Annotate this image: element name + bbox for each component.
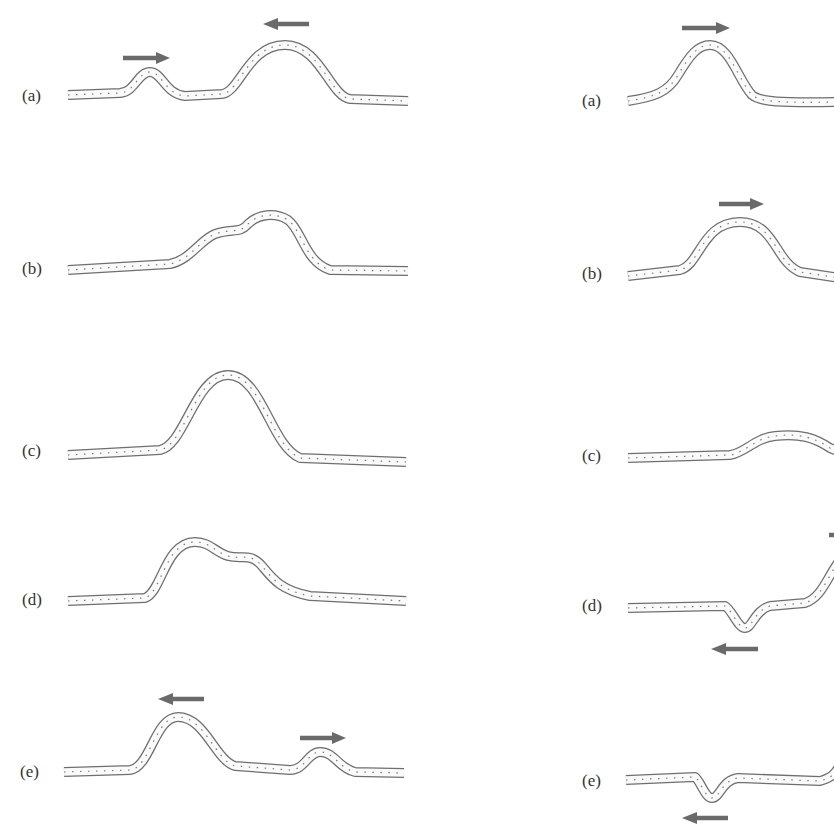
rope-icon [628,222,834,278]
arrow-left-icon [263,18,309,30]
rope-icon [64,717,404,773]
right-panel-b: (b) [560,180,834,300]
arrow-left-icon [682,812,728,824]
rope-diagram [0,340,420,480]
arrow-left-icon [158,693,204,705]
rope-icon [628,45,834,102]
rope-diagram [0,180,420,300]
rope-diagram [0,0,420,140]
right-panel-a: (a) [560,0,834,140]
arrow-right-icon [682,22,730,34]
arrow-right-icon [300,732,346,744]
rope-icon [68,215,408,271]
left-panel-b: (b) [0,180,420,300]
rope-diagram [560,720,834,837]
left-panel-c: (c) [0,340,420,480]
left-panel-e: (e) [0,680,420,810]
arrow-left-icon [711,643,758,655]
rope-diagram [560,0,834,140]
rope-diagram [560,520,834,670]
arrow-right-icon [719,198,764,210]
rope-diagram [0,680,420,810]
right-panel-e: (e) [560,720,834,837]
rope-icon [68,45,408,101]
rope-diagram [560,180,834,300]
rope-icon [626,765,834,798]
right-panel-d: (d) [560,520,834,670]
arrow-right-icon [123,52,170,64]
rope-icon [68,542,406,601]
left-panel-d: (d) [0,520,420,640]
rope-icon [68,375,406,462]
rope-diagram [560,400,834,500]
rope-icon [628,435,834,458]
rope-diagram [0,520,420,640]
left-panel-a: (a) [0,0,420,140]
right-panel-c: (c) [560,400,834,500]
rope-icon [628,560,834,628]
